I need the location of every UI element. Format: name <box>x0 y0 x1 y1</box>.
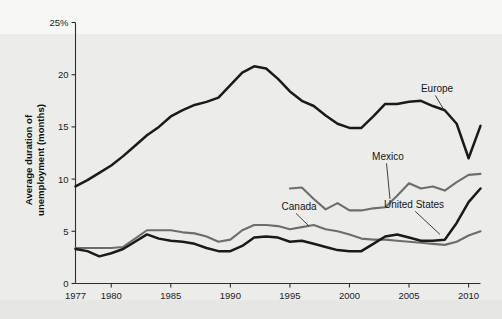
y-tick-label: 15 <box>58 121 69 132</box>
annotation-united-states: United States <box>384 199 444 234</box>
annotation-leader <box>387 163 390 199</box>
annotation-label: Mexico <box>372 151 404 162</box>
y-tick: 10 <box>58 174 76 185</box>
annotation-label: Canada <box>282 201 317 212</box>
series-annotations: EuropeMexicoCanadaUnited States <box>282 83 454 234</box>
x-tick: 1990 <box>220 284 241 302</box>
y-tick-label: 10 <box>58 174 69 185</box>
y-tick-label: 25% <box>49 17 69 28</box>
y-axis-title-line1: Average duration of <box>23 114 34 205</box>
axis-lines <box>76 23 481 284</box>
chart-figure: Average duration of unemployment (months… <box>0 0 502 319</box>
y-tick: 5 <box>63 226 75 237</box>
x-tick: 2005 <box>398 284 419 302</box>
y-axis-title: Average duration of unemployment (months… <box>23 104 46 216</box>
x-tick-label: 1985 <box>160 290 181 301</box>
y-tick: 0 <box>63 278 75 289</box>
x-tick: 1980 <box>101 284 122 302</box>
x-tick-label: 2000 <box>339 290 360 301</box>
y-tick-label: 20 <box>58 69 69 80</box>
annotation-label: United States <box>384 199 444 210</box>
annotation-mexico: Mexico <box>372 151 404 199</box>
x-tick: 2010 <box>458 284 479 302</box>
x-axis-ticks: 19771980198519901995200020052010 <box>65 284 479 302</box>
series-lines <box>76 66 481 256</box>
annotation-canada: Canada <box>282 201 317 226</box>
x-tick: 2000 <box>339 284 360 302</box>
x-tick-label: 1995 <box>279 290 300 301</box>
x-tick-label: 1990 <box>220 290 241 301</box>
x-tick-label: 2005 <box>398 290 419 301</box>
x-tick-label: 1980 <box>101 290 122 301</box>
x-tick-label: 2010 <box>458 290 479 301</box>
annotation-leader <box>296 213 309 226</box>
series-line-europe <box>76 66 481 186</box>
line-chart: Average duration of unemployment (months… <box>0 0 502 319</box>
y-axis-ticks: 0510152025% <box>49 17 75 289</box>
annotation-leader <box>415 211 440 234</box>
x-tick: 1985 <box>160 284 181 302</box>
x-tick-label: 1977 <box>65 290 86 301</box>
y-tick-label: 5 <box>63 226 68 237</box>
y-tick: 15 <box>58 121 76 132</box>
x-tick: 1977 <box>65 290 86 301</box>
y-axis-title-line2: unemployment (months) <box>35 104 46 216</box>
y-tick: 20 <box>58 69 76 80</box>
y-tick: 25% <box>49 17 75 28</box>
y-tick-label: 0 <box>63 278 68 289</box>
x-tick: 1995 <box>279 284 300 302</box>
annotation-label: Europe <box>421 83 454 94</box>
